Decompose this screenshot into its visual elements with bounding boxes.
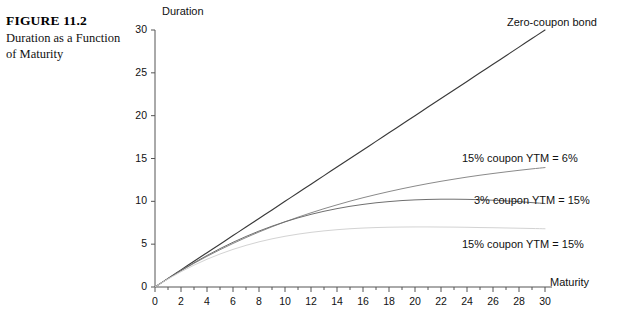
x-tick-label: 12 [300, 295, 322, 307]
x-tick-label: 22 [430, 295, 452, 307]
figure-root: FIGURE 11.2 Duration as a Function of Ma… [0, 0, 624, 328]
y-tick-label: 20 [125, 109, 147, 121]
x-tick-label: 4 [196, 295, 218, 307]
x-tick-label: 28 [508, 295, 530, 307]
x-tick-label: 16 [352, 295, 374, 307]
series-annotation-label: 15% coupon YTM = 15% [462, 238, 584, 250]
x-tick-label: 2 [170, 295, 192, 307]
y-tick-label: 30 [125, 23, 147, 35]
y-tick-label: 15 [125, 152, 147, 164]
y-tick-label: 25 [125, 66, 147, 78]
series-annotation-label: 15% coupon YTM = 6% [462, 152, 578, 164]
y-axis-title: Duration [162, 5, 204, 17]
series-annotation-label: Zero-coupon bond [507, 16, 597, 28]
x-tick-label: 24 [456, 295, 478, 307]
y-tick-label: 10 [125, 194, 147, 206]
x-tick-label: 14 [326, 295, 348, 307]
x-tick-label: 20 [404, 295, 426, 307]
x-tick-label: 0 [144, 295, 166, 307]
chart-plot-area: Duration Maturity 051015202530 024681012… [0, 0, 624, 328]
series-annotation-label: 3% coupon YTM = 15% [474, 194, 590, 206]
x-axis-title: Maturity [550, 276, 589, 288]
x-tick-label: 26 [482, 295, 504, 307]
series-line [155, 227, 545, 287]
chart-canvas [0, 0, 624, 328]
y-tick-label: 0 [125, 280, 147, 292]
x-tick-label: 8 [248, 295, 270, 307]
x-tick-label: 6 [222, 295, 244, 307]
x-tick-label: 30 [534, 295, 556, 307]
x-tick-label: 18 [378, 295, 400, 307]
x-tick-label: 10 [274, 295, 296, 307]
y-tick-label: 5 [125, 237, 147, 249]
